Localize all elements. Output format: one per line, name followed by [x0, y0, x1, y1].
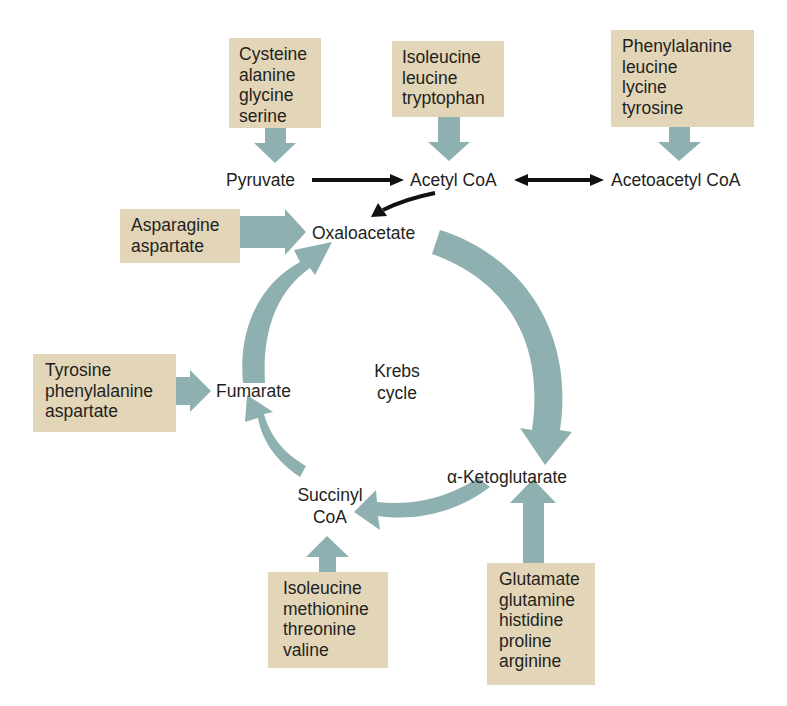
- amino-acid: valine: [283, 640, 380, 661]
- arrow-glutamate-to-alpha-ketoglutarate: [510, 479, 556, 563]
- node-acetyl-coa: Acetyl CoA: [410, 170, 497, 190]
- box-to-oxaloacetate: Asparagine aspartate: [120, 209, 240, 263]
- cycle-arrow-succinyl-coa-to-fumarate: [245, 395, 306, 477]
- node-succinyl-coa-line2: CoA: [290, 507, 370, 527]
- amino-acid: alanine: [239, 65, 313, 86]
- amino-acid: Tyrosine: [45, 360, 168, 381]
- amino-acid: Isoleucine: [402, 47, 496, 68]
- arrow-cysteine-to-pyruvate: [254, 128, 296, 163]
- amino-acid: Cysteine: [239, 44, 313, 65]
- node-oxaloacetate: Oxaloacetate: [312, 223, 415, 243]
- amino-acid: histidine: [499, 610, 587, 631]
- amino-acid: leucine: [622, 57, 746, 78]
- arrow-phenylalanine-to-acetoacetyl-coa: [658, 127, 701, 161]
- node-acetoacetyl-coa: Acetoacetyl CoA: [611, 170, 740, 190]
- arrow-isoleucine-to-acetyl-coa: [428, 117, 470, 161]
- box-to-acetoacetyl-coa: Phenylalanine leucine lycine tyrosine: [611, 30, 754, 127]
- amino-acid: threonine: [283, 619, 380, 640]
- amino-acid: aspartate: [45, 401, 168, 422]
- krebs-cycle-label-line1: Krebs: [362, 361, 432, 381]
- cycle-arrow-fumarate-to-oxaloacetate: [242, 242, 332, 383]
- node-alpha-ketoglutarate: α-Ketoglutarate: [447, 467, 567, 487]
- box-to-acetyl-coa: Isoleucine leucine tryptophan: [392, 41, 504, 117]
- amino-acid: proline: [499, 631, 587, 652]
- node-succinyl-coa-line1: Succinyl: [290, 485, 370, 505]
- amino-acid: Isoleucine: [283, 578, 380, 599]
- krebs-cycle-label-line2: cycle: [362, 383, 432, 403]
- amino-acid: Glutamate: [499, 569, 587, 590]
- amino-acid: phenylalanine: [45, 381, 168, 402]
- amino-acid: glutamine: [499, 590, 587, 611]
- krebs-cycle-label: Krebs cycle: [362, 361, 432, 403]
- amino-acid: Asparagine: [131, 215, 232, 236]
- amino-acid: aspartate: [131, 236, 232, 257]
- box-to-succinyl-coa: Isoleucine methionine threonine valine: [268, 572, 388, 668]
- box-to-alpha-ketoglutarate: Glutamate glutamine histidine proline ar…: [487, 563, 595, 685]
- amino-acid: serine: [239, 106, 313, 127]
- arrow-acetyl-coa-to-oxaloacetate: [383, 193, 435, 210]
- box-to-pyruvate: Cysteine alanine glycine serine: [229, 38, 321, 128]
- amino-acid: lycine: [622, 77, 746, 98]
- amino-acid: arginine: [499, 651, 587, 672]
- amino-acid: tyrosine: [622, 98, 746, 119]
- arrow-isoleucine-to-succinyl-coa: [306, 536, 349, 572]
- amino-acid: glycine: [239, 85, 313, 106]
- arrow-tyrosine-to-fumarate: [176, 370, 211, 412]
- node-succinyl-coa: Succinyl CoA: [290, 485, 370, 527]
- node-fumarate: Fumarate: [216, 381, 291, 401]
- amino-acid: Phenylalanine: [622, 36, 746, 57]
- amino-acid: methionine: [283, 599, 380, 620]
- amino-acid: tryptophan: [402, 88, 496, 109]
- amino-acid: leucine: [402, 68, 496, 89]
- arrow-asparagine-to-oxaloacetate: [240, 209, 306, 255]
- node-pyruvate: Pyruvate: [226, 170, 295, 190]
- box-to-fumarate: Tyrosine phenylalanine aspartate: [33, 354, 176, 432]
- cycle-arrow-oxaloacetate-to-alpha-ketoglutarate: [432, 230, 572, 465]
